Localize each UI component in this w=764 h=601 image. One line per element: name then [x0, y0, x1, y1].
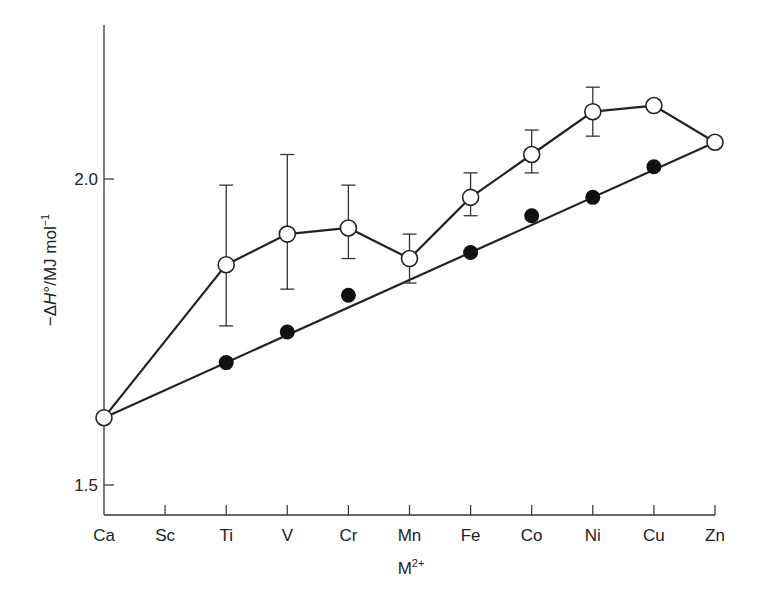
- open-marker: [402, 251, 418, 267]
- x-tick-label: Fe: [461, 526, 481, 545]
- chart: CaScTiVCrMnFeCoNiCuZn1.52.0 M2+ −ΔH°/MJ …: [0, 0, 764, 601]
- x-tick-label: Co: [521, 526, 543, 545]
- open-marker: [585, 104, 601, 120]
- x-tick-label: Mn: [398, 526, 422, 545]
- filled-marker: [646, 159, 661, 174]
- x-tick-label: Cu: [643, 526, 665, 545]
- open-marker: [707, 134, 723, 150]
- x-tick-label: Ca: [93, 526, 115, 545]
- x-tick-label: Zn: [705, 526, 725, 545]
- open-marker: [279, 226, 295, 242]
- y-tick-label: 2.0: [74, 170, 98, 189]
- open-marker: [96, 410, 112, 426]
- open-marker: [524, 147, 540, 163]
- x-axis-title: M2+: [398, 557, 425, 578]
- filled-marker: [341, 288, 356, 303]
- y-tick-label: 1.5: [74, 476, 98, 495]
- y-axis-title: −ΔH°/MJ mol−1: [39, 214, 60, 326]
- filled-marker: [280, 325, 295, 340]
- x-tick-label: V: [282, 526, 294, 545]
- filled-marker: [463, 245, 478, 260]
- x-tick-label: Cr: [339, 526, 357, 545]
- open-marker: [463, 189, 479, 205]
- open-marker: [646, 98, 662, 114]
- plot-area: [96, 87, 723, 425]
- filled-marker: [219, 355, 234, 370]
- x-tick-label: Ni: [585, 526, 601, 545]
- filled-marker: [524, 208, 539, 223]
- x-tick-label: Sc: [155, 526, 175, 545]
- open-marker: [340, 220, 356, 236]
- x-tick-label: Ti: [219, 526, 233, 545]
- open-marker: [218, 257, 234, 273]
- filled-marker: [585, 190, 600, 205]
